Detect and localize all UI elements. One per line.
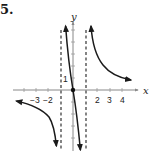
curve-right-branch: [91, 26, 131, 80]
y-axis-label: y: [70, 11, 77, 22]
x-tick-label: 2: [95, 95, 100, 105]
x-tick-label: 4: [120, 95, 125, 105]
x-tick-label: −2: [43, 95, 53, 105]
x-tick-label: −3: [30, 95, 40, 105]
function-graph: x −3 −2 2 3 4 y 1: [0, 0, 156, 153]
x-axis-label: x: [143, 85, 149, 96]
x-axis: [13, 88, 138, 92]
x-tick-label: 3: [107, 95, 112, 105]
curve-left-branch: [16, 101, 56, 146]
y-tick-label: 1: [63, 74, 68, 84]
origin-point: [71, 88, 75, 92]
